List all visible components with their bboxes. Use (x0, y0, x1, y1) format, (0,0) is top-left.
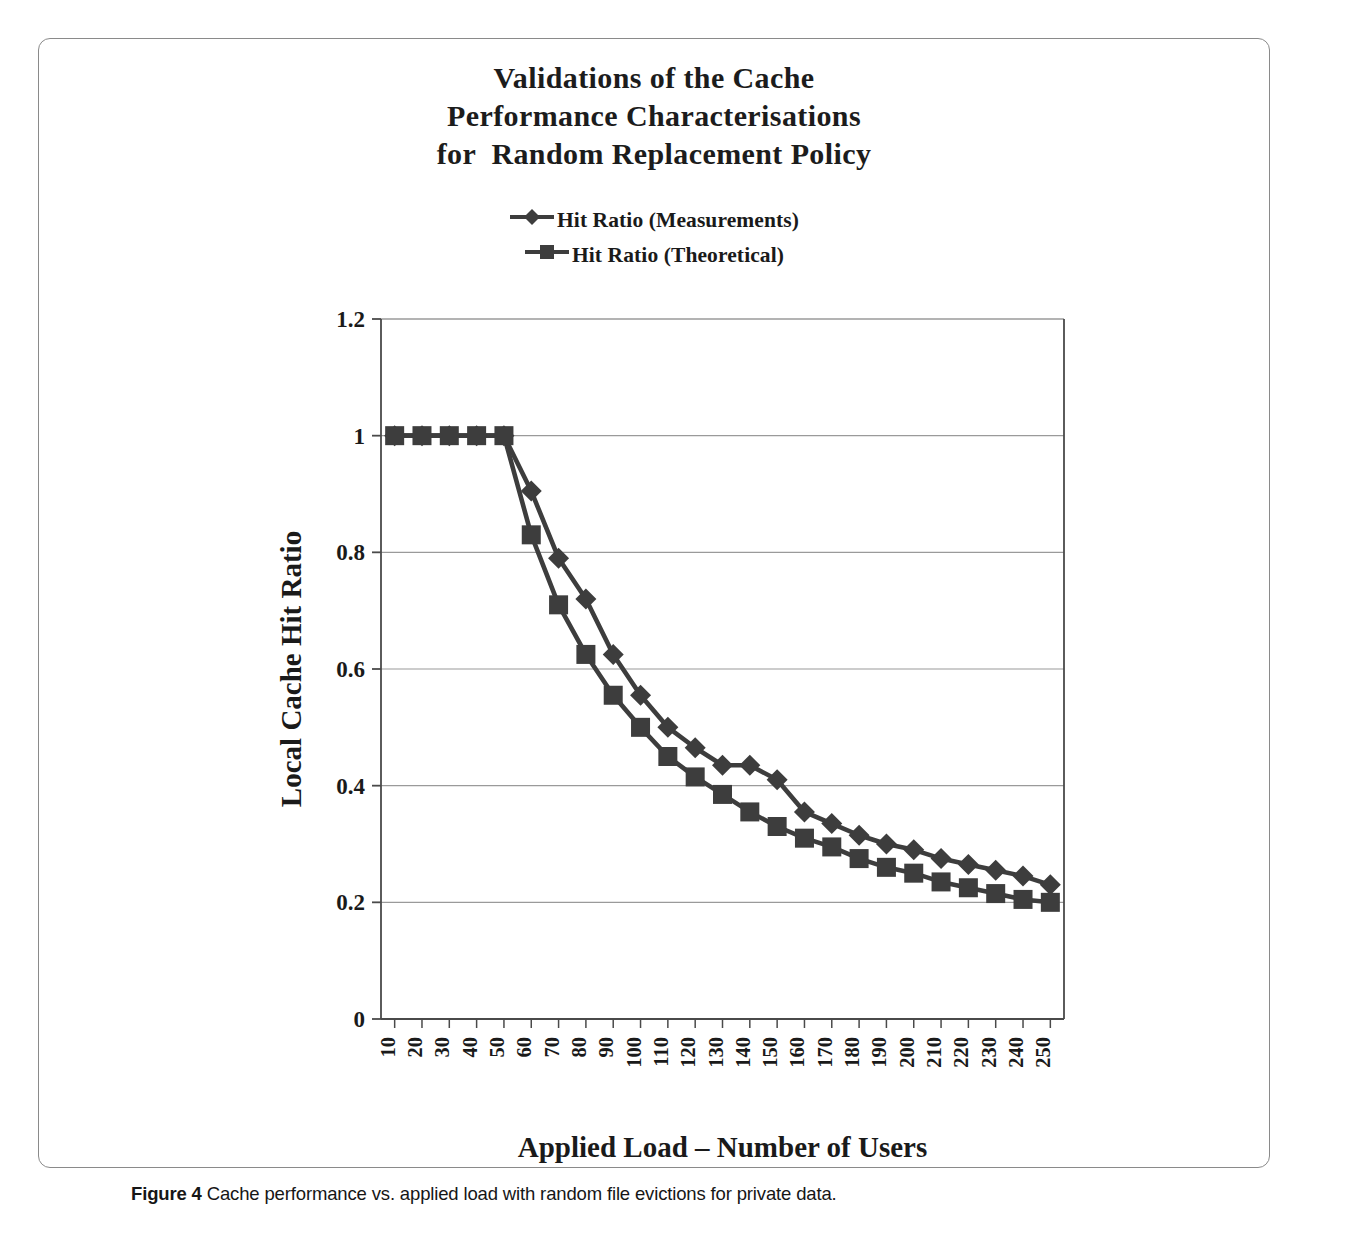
data-point-marker (986, 884, 1005, 903)
data-point-marker (876, 834, 897, 855)
data-point-marker (576, 645, 595, 664)
x-tick-label: 220 (950, 1037, 972, 1068)
x-axis-title: Applied Load – Number of Users (518, 1131, 928, 1163)
x-tick-label: 60 (513, 1037, 535, 1058)
data-point-marker (821, 813, 842, 834)
data-point-marker (739, 755, 760, 776)
data-point-marker (1014, 890, 1033, 909)
data-point-marker (740, 802, 759, 821)
x-tick-label: 190 (868, 1037, 890, 1068)
x-tick-label: 50 (486, 1037, 508, 1058)
data-point-marker (877, 858, 896, 877)
data-point-marker (604, 686, 623, 705)
y-axis-title: Local Cache Hit Ratio (275, 531, 307, 807)
y-tick-label: 1.2 (336, 307, 365, 332)
caption-prefix: Figure 4 (131, 1183, 202, 1204)
x-tick-label: 200 (896, 1037, 918, 1068)
data-point-marker (932, 872, 951, 891)
data-point-marker (904, 864, 923, 883)
x-tick-label: 70 (541, 1037, 563, 1058)
x-tick-label: 40 (459, 1037, 481, 1058)
data-point-marker (631, 718, 650, 737)
x-tick-label: 80 (568, 1037, 590, 1058)
data-point-marker (985, 860, 1006, 881)
x-tick-label: 150 (759, 1037, 781, 1068)
plot-area-wrapper: 00.20.40.60.811.210203040506070809010011… (39, 39, 1271, 1169)
x-tick-label: 160 (786, 1037, 808, 1068)
data-point-marker (1013, 866, 1034, 887)
data-point-marker (1041, 893, 1060, 912)
x-tick-label: 130 (705, 1037, 727, 1068)
y-tick-label: 0.8 (336, 540, 365, 565)
x-tick-label: 20 (404, 1037, 426, 1058)
data-point-marker (931, 848, 952, 869)
data-point-marker (768, 817, 787, 836)
data-point-marker (850, 849, 869, 868)
x-tick-label: 170 (814, 1037, 836, 1068)
data-point-marker (903, 839, 924, 860)
y-tick-label: 0 (354, 1007, 366, 1032)
series-line-1 (395, 436, 1051, 885)
x-tick-label: 180 (841, 1037, 863, 1068)
y-tick-label: 0.2 (336, 890, 365, 915)
figure-caption: Figure 4 Cache performance vs. applied l… (131, 1183, 1261, 1205)
x-tick-label: 250 (1032, 1037, 1054, 1068)
data-point-marker (822, 837, 841, 856)
data-point-marker (658, 747, 677, 766)
data-point-marker (958, 854, 979, 875)
x-tick-label: 100 (623, 1037, 645, 1068)
figure-frame: Validations of the Cache Performance Cha… (38, 38, 1270, 1168)
data-point-marker (713, 785, 732, 804)
x-tick-label: 240 (1005, 1037, 1027, 1068)
data-point-marker (795, 829, 814, 848)
data-point-marker (385, 426, 404, 445)
data-point-marker (412, 426, 431, 445)
y-tick-label: 1 (354, 424, 366, 449)
data-point-marker (549, 595, 568, 614)
data-point-marker (959, 878, 978, 897)
x-tick-label: 140 (732, 1037, 754, 1068)
y-tick-label: 0.6 (336, 657, 365, 682)
x-tick-label: 10 (377, 1037, 399, 1058)
x-tick-label: 90 (595, 1037, 617, 1058)
data-point-marker (1040, 874, 1061, 895)
x-tick-label: 210 (923, 1037, 945, 1068)
caption-text: Cache performance vs. applied load with … (207, 1183, 837, 1204)
data-point-marker (686, 767, 705, 786)
data-point-marker (521, 481, 542, 502)
data-point-marker (494, 426, 513, 445)
x-tick-label: 110 (650, 1037, 672, 1067)
x-tick-label: 230 (978, 1037, 1000, 1068)
x-tick-label: 120 (677, 1037, 699, 1068)
chart-plot: 00.20.40.60.811.210203040506070809010011… (39, 39, 1271, 1169)
y-tick-label: 0.4 (336, 774, 365, 799)
data-point-marker (467, 426, 486, 445)
data-point-marker (849, 825, 870, 846)
data-point-marker (440, 426, 459, 445)
data-point-marker (522, 525, 541, 544)
x-tick-label: 30 (431, 1037, 453, 1058)
